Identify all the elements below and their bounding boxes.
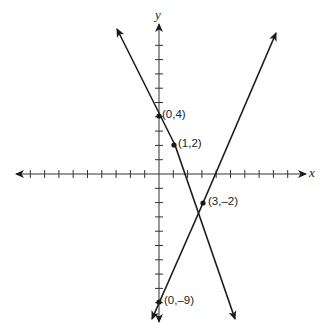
point-label-0-neg9: (0,–9) — [164, 295, 194, 307]
point-0-neg9 — [156, 299, 161, 304]
line-2 — [203, 33, 276, 203]
point-1-2 — [171, 142, 176, 147]
line-1 — [117, 29, 175, 145]
coordinate-plane: y x (0,4) (1,2) (3,–2) (0,–9) — [0, 0, 328, 335]
line-1 — [175, 145, 235, 319]
graph-svg — [0, 0, 328, 335]
point-0-4 — [156, 113, 161, 118]
point-label-1-2: (1,2) — [178, 138, 202, 150]
point-label-0-4: (0,4) — [162, 109, 186, 121]
point-3-neg2 — [200, 200, 205, 205]
y-axis-label: y — [155, 8, 161, 21]
x-axis-label: x — [309, 166, 315, 179]
point-label-3-neg2: (3,–2) — [208, 196, 238, 208]
